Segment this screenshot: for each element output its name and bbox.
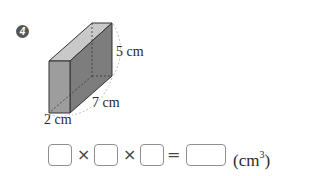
prism-front-face (49, 61, 70, 113)
answer-blank-3[interactable] (140, 144, 164, 166)
answer-blank-1[interactable] (48, 144, 72, 166)
equals-sign: = (167, 145, 180, 165)
length-label: 7 cm (92, 95, 120, 111)
answer-blank-result[interactable] (186, 144, 226, 166)
width-label: 2 cm (44, 112, 72, 128)
volume-unit: (cm3) (233, 145, 270, 171)
answer-blank-2[interactable] (94, 144, 118, 166)
times-sign-1: × (77, 145, 90, 165)
height-label: 5 cm (116, 44, 144, 60)
times-sign-2: × (123, 145, 136, 165)
